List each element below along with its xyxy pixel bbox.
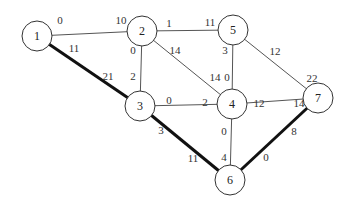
svg-text:3: 3 xyxy=(137,99,143,113)
edge-label: 3 xyxy=(158,124,164,136)
edge-label: 8 xyxy=(291,125,297,137)
edge-1-2 xyxy=(37,31,142,36)
edge-label: 14 xyxy=(170,44,182,56)
svg-text:5: 5 xyxy=(230,23,236,37)
edge-label: 11 xyxy=(188,152,199,164)
edge-label: 10 xyxy=(116,14,128,26)
edge-label: 22 xyxy=(307,72,318,84)
edge-5-7 xyxy=(233,30,318,98)
edge-label: 0 xyxy=(221,125,227,137)
graph-diagram: 0 10 11 21 1 11 0 2 14 14 3 0 12 22 0 2 … xyxy=(0,0,355,206)
node-7: 7 xyxy=(303,83,333,113)
svg-text:1: 1 xyxy=(34,29,40,43)
edge-label: 0 xyxy=(224,71,230,83)
svg-text:6: 6 xyxy=(227,173,233,187)
edge-label: 2 xyxy=(130,70,136,82)
edge-label: 0 xyxy=(57,14,63,26)
edge-label: 11 xyxy=(205,16,216,28)
edge-label: 21 xyxy=(103,70,114,82)
edge-label: 0 xyxy=(166,94,172,106)
svg-text:7: 7 xyxy=(315,91,321,105)
edge-1-3 xyxy=(37,36,140,106)
node-2: 2 xyxy=(127,16,157,46)
edge-3-6 xyxy=(140,106,230,180)
edge-label: 14 xyxy=(210,71,222,83)
node-3: 3 xyxy=(125,91,155,121)
edge-label: 0 xyxy=(130,44,136,56)
edge-label: 12 xyxy=(270,45,281,57)
edge-label: 3 xyxy=(222,44,228,56)
node-6: 6 xyxy=(215,165,245,195)
edge-label: 0 xyxy=(263,151,269,163)
svg-text:4: 4 xyxy=(229,97,235,111)
svg-text:2: 2 xyxy=(139,24,145,38)
node-1: 1 xyxy=(22,21,52,51)
edge-label: 4 xyxy=(221,151,227,163)
edge-label: 11 xyxy=(69,42,80,54)
edge-label: 1 xyxy=(166,17,172,29)
edge-label: 2 xyxy=(202,96,208,108)
edge-2-4 xyxy=(142,31,232,104)
node-4: 4 xyxy=(217,89,247,119)
node-5: 5 xyxy=(218,15,248,45)
edge-label: 12 xyxy=(254,97,265,109)
